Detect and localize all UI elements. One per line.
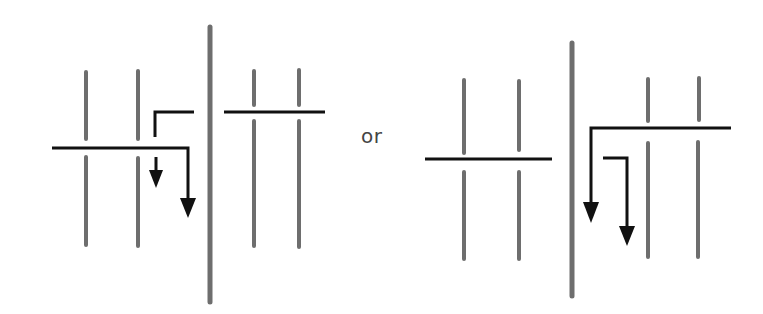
right-panel: [425, 43, 731, 296]
diagram-canvas: [0, 0, 763, 314]
arrowhead-icon: [180, 198, 196, 218]
or-separator-label: or: [361, 124, 382, 148]
long-strand-path: [591, 128, 731, 208]
short-strand-path: [155, 112, 194, 137]
arrowhead-icon: [583, 202, 599, 223]
short-strand-path: [603, 158, 627, 232]
arrowhead-icon: [619, 226, 635, 246]
left-panel: [52, 27, 325, 302]
arrowhead-icon: [149, 170, 163, 188]
long-strand-path: [52, 148, 188, 204]
